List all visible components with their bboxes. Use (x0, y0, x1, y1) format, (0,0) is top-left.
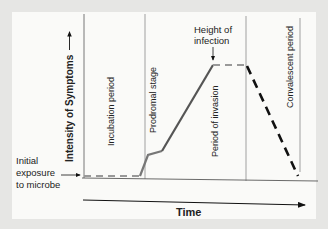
initial-annotation-line2: exposure (16, 167, 55, 178)
y-axis-label: Intensity of Symptoms (64, 54, 75, 162)
baseline (82, 178, 318, 181)
invasion-line (162, 65, 213, 151)
phase-label-incubation: Incubation period (106, 77, 116, 146)
x-axis-label: Time (176, 206, 201, 218)
phase-label-prodromal: Prodromal stage (148, 67, 158, 133)
initial-annotation-line1: Initial (16, 155, 38, 166)
time-arrow (83, 200, 305, 205)
symptom-phase-chart: Time Intensity of Symptoms Incubation pe… (0, 0, 328, 229)
phase-label-invasion: Period of invasion (210, 85, 220, 157)
initial-annotation-line3: to microbe (16, 179, 60, 190)
phase-label-convalescent: Convalescent period (285, 26, 295, 108)
height-annotation-line2: infection (194, 35, 229, 46)
height-annotation-line1: Height of (194, 24, 232, 35)
prodromal-line (140, 151, 162, 176)
